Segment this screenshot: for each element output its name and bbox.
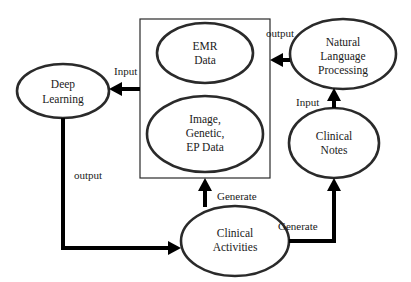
node-label: Natural — [326, 36, 360, 48]
edge-label: output — [74, 169, 102, 181]
diagram-canvas: EMR Data Image, Genetic, EP Data Deep Le… — [0, 0, 411, 282]
edge-notes-to-nlp: Input — [296, 88, 341, 108]
arrowhead-icon — [168, 241, 181, 255]
node-label: Clinical — [316, 130, 352, 142]
edge-label: Input — [114, 65, 137, 77]
node-label: Data — [194, 54, 216, 66]
node-clinical-activities: Clinical Activities — [181, 206, 289, 276]
arrowhead-icon — [270, 53, 283, 67]
edge-activities-to-box: Generate — [198, 178, 257, 207]
edge-label: Generate — [278, 220, 318, 232]
node-label: Clinical — [217, 227, 253, 239]
node-label: Genetic, — [186, 127, 225, 140]
node-label: Learning — [42, 93, 84, 106]
node-deep-learning: Deep Learning — [17, 64, 109, 118]
node-label: EMR — [193, 40, 218, 52]
node-label: Image, — [189, 113, 221, 126]
arrowhead-icon — [109, 82, 122, 96]
edge-box-to-deep-learning: Input — [109, 65, 140, 96]
edge-label: output — [266, 27, 294, 39]
node-image-genetic-ep: Image, Genetic, EP Data — [147, 96, 263, 172]
node-clinical-notes: Clinical Notes — [289, 108, 379, 178]
arrowhead-icon — [327, 178, 341, 191]
node-label: Activities — [213, 241, 258, 253]
edge-activities-to-notes: Generate — [278, 178, 341, 241]
edge-label: Generate — [217, 190, 257, 202]
node-nlp: Natural Language Processing — [290, 19, 396, 89]
node-emr-data: EMR Data — [157, 23, 253, 83]
node-label: Notes — [321, 144, 348, 156]
node-label: Language — [320, 50, 365, 63]
edge-label: Input — [296, 96, 319, 108]
node-label: EP Data — [186, 141, 224, 153]
node-label: Processing — [318, 64, 368, 77]
arrowhead-icon — [198, 178, 212, 191]
node-label: Deep — [51, 78, 76, 91]
